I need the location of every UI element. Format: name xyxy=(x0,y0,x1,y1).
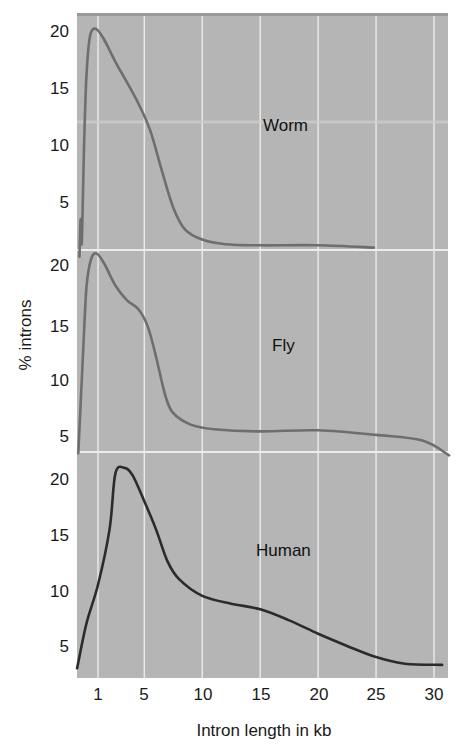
y-tick-label: 5 xyxy=(60,427,69,446)
plot-top-border xyxy=(77,13,448,16)
x-axis: 1 5 10 15 20 25 30 xyxy=(93,685,443,704)
y-axis-label: % introns xyxy=(16,300,35,371)
y-tick-label: 10 xyxy=(50,371,69,390)
panel-label-human: Human xyxy=(256,541,311,560)
x-tick-label: 1 xyxy=(93,685,102,704)
y-tick-label: 15 xyxy=(50,526,69,545)
x-tick-label: 30 xyxy=(425,685,444,704)
y-tick-label: 5 xyxy=(60,637,69,656)
y-axis-fly: 20 15 10 5 xyxy=(50,256,69,446)
y-tick-label: 20 xyxy=(50,256,69,275)
x-tick-label: 15 xyxy=(252,685,271,704)
y-tick-label: 15 xyxy=(50,79,69,98)
x-tick-label: 10 xyxy=(194,685,213,704)
y-tick-label: 20 xyxy=(50,470,69,489)
panel-label-fly: Fly xyxy=(272,336,295,355)
y-axis-worm: 20 15 10 5 xyxy=(50,22,69,212)
panel-label-worm: Worm xyxy=(263,116,308,135)
y-axis-human: 20 15 10 5 xyxy=(50,470,69,656)
x-tick-label: 20 xyxy=(310,685,329,704)
plot-area xyxy=(77,13,448,678)
x-axis-label: Intron length in kb xyxy=(196,721,331,740)
y-tick-label: 10 xyxy=(50,136,69,155)
intron-length-chart: Worm Fly Human 20 15 10 5 20 15 10 5 20 … xyxy=(0,0,458,748)
y-tick-label: 15 xyxy=(50,317,69,336)
y-tick-label: 20 xyxy=(50,22,69,41)
y-tick-label: 5 xyxy=(60,193,69,212)
x-tick-label: 5 xyxy=(139,685,148,704)
y-tick-label: 10 xyxy=(50,582,69,601)
x-tick-label: 25 xyxy=(367,685,386,704)
